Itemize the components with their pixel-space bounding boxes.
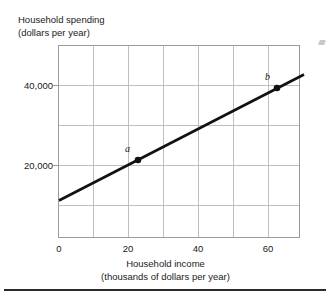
corner-smudge-mark (318, 40, 326, 45)
gridline-horizontal (59, 205, 299, 206)
x-axis-title: Household income (0, 258, 331, 271)
x-axis-caption: Household income (thousands of dollars p… (0, 258, 331, 283)
y-axis-ticks: 40,000 20,000 (0, 0, 53, 301)
chart-figure: Household spending (dollars per year) a … (0, 0, 331, 301)
y-tick-label-20000: 20,000 (24, 160, 53, 171)
y-tick-mark (53, 85, 58, 86)
gridline-vertical (198, 46, 199, 237)
gridline-vertical (233, 46, 234, 237)
y-tick-mark (53, 165, 58, 166)
plot-area (58, 45, 300, 238)
gridline-vertical (93, 46, 94, 237)
x-axis-units: (thousands of dollars per year) (0, 271, 331, 284)
gridline-horizontal (59, 165, 299, 166)
gridline-horizontal (59, 125, 299, 126)
gridline-vertical (163, 46, 164, 237)
data-point-label-b: b (265, 71, 270, 82)
x-tick-label-0: 0 (56, 243, 61, 254)
x-tick-label-20: 20 (123, 243, 134, 254)
gridline-horizontal (59, 85, 299, 86)
data-point-label-a: a (125, 143, 130, 154)
bottom-divider-rule (4, 289, 326, 291)
y-tick-label-40000: 40,000 (24, 80, 53, 91)
gridline-vertical (128, 46, 129, 237)
x-tick-label-60: 60 (263, 243, 274, 254)
x-tick-label-40: 40 (193, 243, 204, 254)
